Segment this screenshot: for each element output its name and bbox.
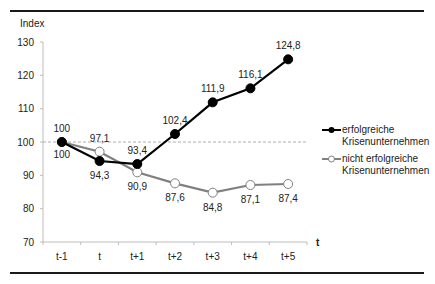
y-tick-label: 130 [17, 37, 34, 48]
series-nicht-erfolgreiche [57, 138, 292, 198]
x-tick-label: t+2 [168, 251, 183, 262]
y-tick-label: 90 [23, 170, 35, 181]
y-axis-label: Index [20, 18, 44, 29]
data-label: 116,1 [238, 69, 263, 80]
data-point [95, 157, 104, 166]
data-label: 94,3 [90, 170, 110, 181]
data-label: 87,6 [165, 192, 185, 203]
series-group: 10094,393,4102,4111,9116,1124,810097,190… [54, 40, 302, 212]
data-point [208, 98, 217, 107]
y-tick-label: 100 [17, 137, 34, 148]
legend-label: erfolgreiche [342, 124, 395, 135]
data-point [171, 130, 180, 139]
legend-marker [329, 156, 335, 162]
data-label: 100 [54, 123, 71, 134]
legend-item: nicht erfolgreicheKrisenunternehmen [322, 153, 429, 176]
data-label: 111,9 [201, 83, 225, 94]
y-tick-label: 120 [17, 70, 34, 81]
data-point [284, 55, 293, 64]
data-point [284, 180, 293, 189]
x-axis-label: t [316, 237, 320, 248]
data-point [171, 179, 180, 188]
data-label: 87,4 [278, 193, 298, 204]
data-label: 100 [54, 149, 71, 160]
data-label: 93,4 [128, 145, 148, 156]
data-label: 84,8 [203, 202, 223, 213]
x-tick-label: t+4 [243, 251, 258, 262]
x-tick-label: t [98, 251, 101, 262]
legend-label: nicht erfolgreiche [342, 153, 419, 164]
y-tick-label: 70 [23, 237, 35, 248]
legend-item: erfolgreicheKrisenunternehmen [322, 124, 429, 147]
legend: erfolgreicheKrisenunternehmennicht erfol… [322, 124, 429, 176]
data-label: 87,1 [241, 194, 261, 205]
data-point [246, 181, 255, 190]
data-point [133, 168, 142, 177]
data-point [95, 147, 104, 156]
line-chart: Index t 708090100110120130t-1tt+1t+2t+3t… [0, 0, 435, 284]
y-tick-label: 80 [23, 203, 35, 214]
data-point [246, 84, 255, 93]
y-tick-label: 110 [18, 103, 34, 114]
x-tick-label: t+1 [130, 251, 145, 262]
data-label: 102,4 [162, 115, 187, 126]
data-point [133, 160, 142, 169]
data-label: 97,1 [90, 133, 110, 144]
legend-label: Krisenunternehmen [342, 165, 429, 176]
data-point [57, 138, 66, 147]
x-tick-label: t-1 [56, 251, 68, 262]
data-label: 124,8 [276, 40, 301, 51]
legend-label: Krisenunternehmen [342, 136, 429, 147]
x-tick-label: t+5 [281, 251, 296, 262]
data-label: 90,9 [128, 181, 148, 192]
x-tick-label: t+3 [206, 251, 221, 262]
data-point [208, 188, 217, 197]
legend-marker [329, 127, 335, 133]
